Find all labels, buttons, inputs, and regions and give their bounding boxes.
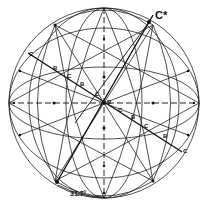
pole-dot xyxy=(147,20,151,24)
pole-dot xyxy=(103,76,106,79)
label-b: B xyxy=(53,65,58,71)
great-circle xyxy=(104,8,153,181)
pole-dot xyxy=(55,180,59,184)
pole-dot xyxy=(53,102,56,105)
pole-dot xyxy=(152,102,155,105)
label-c: C xyxy=(95,91,100,97)
pole-dot xyxy=(187,134,189,136)
great-circle xyxy=(55,25,199,103)
label-b: B xyxy=(107,99,112,105)
pole-dot xyxy=(103,38,105,40)
label-c: C xyxy=(183,148,188,154)
great-circle xyxy=(9,25,153,103)
great-circle xyxy=(104,25,153,198)
pole-dot xyxy=(19,134,21,136)
label-b: B xyxy=(131,114,136,120)
pole-dot xyxy=(102,101,106,105)
pole-dot xyxy=(152,180,155,183)
label-c: C xyxy=(67,73,72,79)
pole-dot xyxy=(103,165,105,167)
pole-dot xyxy=(19,70,21,72)
label-b: B xyxy=(163,133,168,139)
label-c: C xyxy=(118,107,123,113)
pole-dot xyxy=(103,127,106,130)
stereographic-projection: C B C B C B C B C B C C* 31.7° xyxy=(0,0,204,202)
pole-dot xyxy=(103,192,105,194)
label-b: B xyxy=(80,81,85,87)
c-star-label: C* xyxy=(155,9,168,21)
pole-dot xyxy=(187,70,189,72)
label-c: C xyxy=(29,51,34,57)
pole-dot xyxy=(193,102,195,104)
label-c: C xyxy=(144,123,149,129)
pole-dot xyxy=(13,102,15,104)
pole-dot xyxy=(54,24,57,27)
great-circle xyxy=(55,103,199,181)
